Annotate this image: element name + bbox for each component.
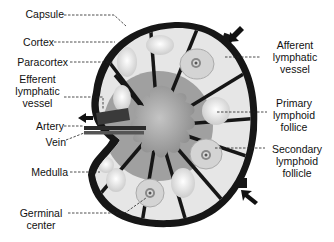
label-primary-line2: lymphoid (264, 109, 324, 121)
label-efferent-line1: Efferent (10, 73, 65, 85)
label-primary-line1: Primary (264, 97, 324, 109)
label-efferent-line3: vessel (10, 97, 65, 109)
label-cortex: Cortex (14, 36, 54, 48)
label-primary-follicle: Primary lymphoid follice (264, 97, 324, 133)
label-secondary-line3: follicle (264, 167, 330, 179)
label-capsule: Capsule (20, 8, 64, 20)
label-efferent-vessel: Efferent lymphatic vessel (10, 73, 65, 109)
label-vein: Vein (20, 136, 66, 148)
efferent-arrow-icon (78, 113, 93, 123)
label-medulla: Medulla (10, 166, 68, 178)
label-efferent-line2: lymphatic (10, 85, 65, 97)
afferent-arrow-top-icon (229, 26, 244, 42)
artery (84, 126, 146, 130)
label-secondary-line1: Secondary (264, 143, 330, 155)
afferent-arrow-bottom-icon (241, 190, 258, 205)
label-paracortex: Paracortex (6, 56, 68, 68)
label-germinal-line1: Germinal (14, 207, 68, 219)
label-secondary-follicle: Secondary lymphoid follicle (264, 143, 330, 179)
label-afferent-line2: lymphatic (262, 51, 328, 63)
label-germinal-center: Germinal center (14, 207, 68, 231)
label-primary-line3: follice (264, 121, 324, 133)
label-germinal-line2: center (14, 219, 68, 231)
label-afferent-line1: Afferent (262, 39, 328, 51)
label-secondary-line2: lymphoid (264, 155, 330, 167)
label-afferent-line3: vessel (262, 63, 328, 75)
label-artery: Artery (20, 120, 64, 132)
lymph-node-diagram: Capsule Cortex Paracortex Efferent lymph… (0, 0, 334, 242)
vein (84, 131, 144, 135)
label-afferent-vessel: Afferent lymphatic vessel (262, 39, 328, 75)
